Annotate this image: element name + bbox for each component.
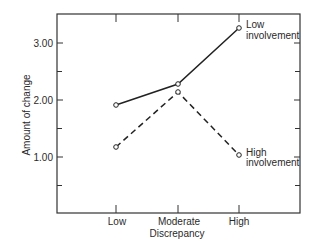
chart: 3.00 2.00 1.00 Amount of change Low Mode… <box>0 0 315 247</box>
x-axis-title: Discrepancy <box>149 228 204 239</box>
x-tick-label: High <box>229 216 250 227</box>
plot-frame <box>57 14 300 213</box>
legend-low-involvement-line1: Low <box>246 19 265 30</box>
series-high-involvement-line <box>116 92 239 155</box>
data-markers <box>114 26 242 158</box>
x-tick-label: Low <box>108 216 127 227</box>
y-tick-label: 1.00 <box>34 152 54 163</box>
x-tick-label: Moderate <box>158 216 201 227</box>
y-tick-label: 3.00 <box>34 38 54 49</box>
y-tick-label: 2.00 <box>34 95 54 106</box>
y-axis-title: Amount of change <box>21 74 32 156</box>
legend-high-involvement-line2: involvement <box>246 157 300 168</box>
x-axis-ticks <box>116 14 239 213</box>
legend-low-involvement-line2: involvement <box>246 30 300 41</box>
